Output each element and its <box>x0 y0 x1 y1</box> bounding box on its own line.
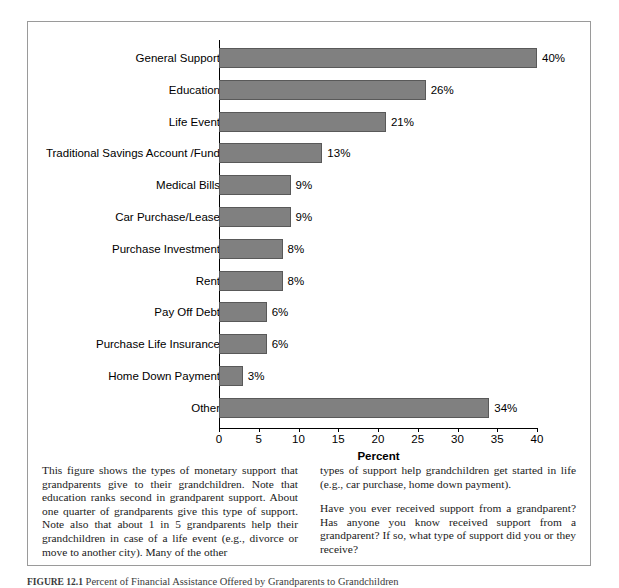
x-tick-mark <box>338 428 339 432</box>
bar <box>219 48 537 68</box>
bar-category-label: Home Down Payment <box>30 362 220 390</box>
bar <box>219 80 426 100</box>
bar-value-label: 8% <box>283 271 305 291</box>
bar-value-label: 9% <box>291 175 313 195</box>
x-tick-label: 5 <box>244 433 274 445</box>
bar-category-label: Purchase Life Insurance <box>30 330 220 358</box>
x-tick-mark <box>537 428 538 432</box>
body-paragraph: Have you ever received support from a gr… <box>320 502 576 556</box>
figure-caption-text: Percent of Financial Assistance Offered … <box>86 576 399 587</box>
bar-value-label: 40% <box>537 48 565 68</box>
body-paragraph: types of support help grandchildren get … <box>320 464 576 491</box>
x-tick-mark <box>378 428 379 432</box>
bar-track: 13% <box>219 143 590 163</box>
figure-box: General Support40%Education26%Life Event… <box>27 21 591 566</box>
bar-row: Home Down Payment3% <box>28 362 590 390</box>
bar-category-label: Education <box>30 76 220 104</box>
bar-track: 3% <box>219 366 590 386</box>
bar <box>219 143 322 163</box>
x-tick-label: 10 <box>284 433 314 445</box>
x-tick-label: 40 <box>522 433 552 445</box>
bar-category-label: General Support <box>30 44 220 72</box>
x-tick-mark <box>458 428 459 432</box>
bar-category-label: Life Event <box>30 108 220 136</box>
bar-category-label: Other <box>30 394 220 422</box>
bar-track: 9% <box>219 207 590 227</box>
x-tick-mark <box>259 428 260 432</box>
x-tick-label: 35 <box>482 433 512 445</box>
bar-track: 21% <box>219 112 590 132</box>
x-tick-label: 0 <box>204 433 234 445</box>
bar-track: 6% <box>219 334 590 354</box>
text-column-right: types of support help grandchildren get … <box>320 464 576 564</box>
bar-category-label: Medical Bills <box>30 171 220 199</box>
bar-row: General Support40% <box>28 44 590 72</box>
bar-value-label: 13% <box>322 143 350 163</box>
x-tick-label: 30 <box>443 433 473 445</box>
bar <box>219 271 283 291</box>
bar-row: Traditional Savings Account /Fund13% <box>28 139 590 167</box>
bar <box>219 239 283 259</box>
bar-row: Purchase Investment8% <box>28 235 590 263</box>
bar <box>219 207 291 227</box>
bar-track: 6% <box>219 302 590 322</box>
bar <box>219 366 243 386</box>
bar <box>219 112 386 132</box>
x-tick-mark <box>497 428 498 432</box>
bar-row: Pay Off Debt6% <box>28 298 590 326</box>
figure-caption-label: FIGURE 12.1 <box>27 577 83 587</box>
bar-row: Purchase Life Insurance6% <box>28 330 590 358</box>
text-column-left: This figure shows the types of monetary … <box>42 464 298 564</box>
bar-value-label: 9% <box>291 207 313 227</box>
bar <box>219 175 291 195</box>
bar-track: 8% <box>219 271 590 291</box>
body-paragraph: This figure shows the types of monetary … <box>42 464 298 559</box>
bar-value-label: 21% <box>386 112 414 132</box>
bar-row: Car Purchase/Lease9% <box>28 203 590 231</box>
bar-category-label: Rent <box>30 267 220 295</box>
bar-category-label: Purchase Investment <box>30 235 220 263</box>
bar-track: 34% <box>219 398 590 418</box>
bar-category-label: Car Purchase/Lease <box>30 203 220 231</box>
bar-value-label: 34% <box>489 398 517 418</box>
bar-value-label: 26% <box>426 80 454 100</box>
bar-track: 8% <box>219 239 590 259</box>
bar-row: Rent8% <box>28 267 590 295</box>
bar-track: 26% <box>219 80 590 100</box>
bar-category-label: Pay Off Debt <box>30 298 220 326</box>
bar-value-label: 8% <box>283 239 305 259</box>
x-axis-title: Percent <box>219 450 538 462</box>
bar-value-label: 6% <box>267 334 289 354</box>
figure-text-body: This figure shows the types of monetary … <box>28 464 590 564</box>
bar-track: 9% <box>219 175 590 195</box>
bar-value-label: 3% <box>243 366 265 386</box>
bar-chart: General Support40%Education26%Life Event… <box>28 22 590 462</box>
x-tick-mark <box>418 428 419 432</box>
x-tick-label: 20 <box>363 433 393 445</box>
bar <box>219 334 267 354</box>
x-tick-mark <box>299 428 300 432</box>
bar-value-label: 6% <box>267 302 289 322</box>
bar-row: Life Event21% <box>28 108 590 136</box>
bar-row: Education26% <box>28 76 590 104</box>
bar-row: Other34% <box>28 394 590 422</box>
x-tick-label: 25 <box>403 433 433 445</box>
figure-caption: FIGURE 12.1 Percent of Financial Assista… <box>27 576 591 588</box>
bar <box>219 398 489 418</box>
bar-row: Medical Bills9% <box>28 171 590 199</box>
bar <box>219 302 267 322</box>
x-tick-label: 15 <box>323 433 353 445</box>
bar-category-label: Traditional Savings Account /Fund <box>30 139 220 167</box>
x-tick-mark <box>219 428 220 432</box>
bar-track: 40% <box>219 48 590 68</box>
